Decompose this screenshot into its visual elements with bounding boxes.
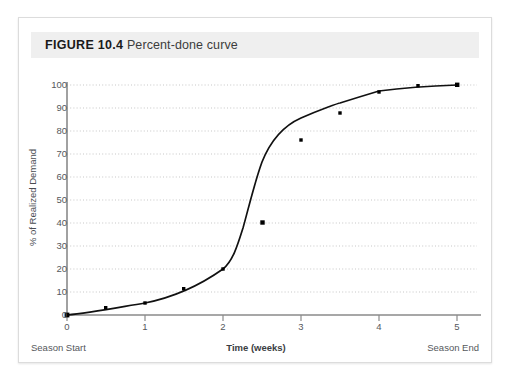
y-axis-label: % of Realized Demand xyxy=(27,128,38,268)
x-axis-label: Time (weeks) xyxy=(19,342,493,353)
y-tick-label-0: 0 xyxy=(39,310,67,320)
x-tick-label-1: 1 xyxy=(135,321,155,332)
gridlines xyxy=(67,85,477,292)
y-axis-label-wrap: % of Realized Demand xyxy=(25,128,39,268)
x-tick-label-4: 4 xyxy=(369,321,389,332)
y-tick-label-20: 20 xyxy=(39,264,67,274)
x-tick-label-0: 0 xyxy=(57,321,77,332)
figure-card: FIGURE 10.4 Percent-done curve % of Real… xyxy=(18,17,492,363)
y-tick-label-40: 40 xyxy=(39,218,67,228)
x-tick-label-2: 2 xyxy=(213,321,233,332)
y-tick-label-30: 30 xyxy=(39,241,67,251)
chart-plot-region: % of Realized Demand 100 90 80 70 60 50 … xyxy=(19,18,493,364)
x-tick-label-5: 5 xyxy=(447,321,467,332)
y-tick-label-90: 90 xyxy=(39,103,67,113)
y-tick-label-80: 80 xyxy=(39,126,67,136)
y-tick-label-10: 10 xyxy=(39,287,67,297)
season-end-label: Season End xyxy=(427,342,479,353)
y-tick-label-70: 70 xyxy=(39,149,67,159)
x-tick-label-3: 3 xyxy=(291,321,311,332)
x-axis-ticks xyxy=(67,315,457,321)
y-tick-label-60: 60 xyxy=(39,172,67,182)
y-tick-label-100: 100 xyxy=(39,80,67,90)
y-tick-label-50: 50 xyxy=(39,195,67,205)
chart-svg xyxy=(19,18,493,364)
